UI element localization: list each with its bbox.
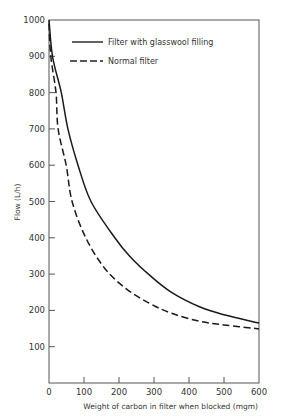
y-tick-label: 800 <box>29 88 45 98</box>
legend-label-normal: Normal filter <box>108 57 159 66</box>
y-axis: 1002003004005006007008009001000 <box>23 15 55 352</box>
plot-frame <box>49 20 259 383</box>
legend-label-glasswool: Filter with glasswool filling <box>108 38 213 47</box>
x-tick-label: 500 <box>216 387 232 397</box>
y-tick-label: 400 <box>29 233 45 243</box>
x-tick-label: 100 <box>76 387 92 397</box>
y-tick-label: 300 <box>29 269 45 279</box>
legend: Filter with glasswool filling Normal fil… <box>70 38 213 66</box>
series-group <box>49 20 259 329</box>
y-tick-label: 500 <box>29 197 45 207</box>
x-axis: 0100200300400500600 <box>46 377 267 397</box>
y-tick-label: 200 <box>29 305 45 315</box>
x-tick-label: 400 <box>181 387 197 397</box>
normal-filter-curve <box>49 24 259 329</box>
y-tick-label: 100 <box>29 342 45 352</box>
y-axis-title: Flow (L/h) <box>13 184 22 221</box>
y-tick-label: 1000 <box>23 15 45 25</box>
y-tick-label: 600 <box>29 160 45 170</box>
x-tick-label: 300 <box>146 387 162 397</box>
x-tick-label: 200 <box>111 387 127 397</box>
flow-chart: 1002003004005006007008009001000 01002003… <box>0 0 282 420</box>
x-axis-title: Weight of carbon in filter when blocked … <box>83 402 258 411</box>
y-tick-label: 700 <box>29 124 45 134</box>
y-tick-label: 900 <box>29 51 45 61</box>
x-tick-label: 0 <box>46 387 51 397</box>
x-tick-label: 600 <box>251 387 267 397</box>
